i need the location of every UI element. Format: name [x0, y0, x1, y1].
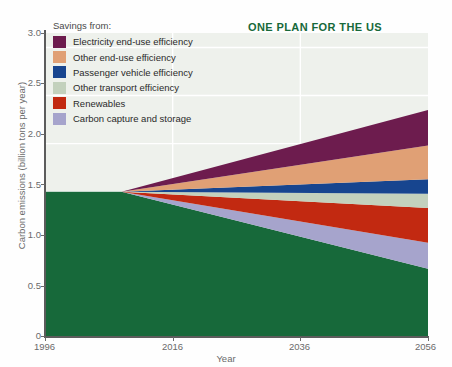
legend-swatch-icon	[53, 51, 66, 63]
x-tick-2056: 2056	[415, 341, 436, 352]
legend-item-label: Other end-use efficiency	[73, 52, 176, 63]
legend-item-other-end-use-efficiency: Other end-use efficiency	[53, 49, 243, 64]
x-tickmark-2036	[300, 337, 301, 341]
y-tickmark-1.5	[41, 184, 45, 185]
x-tickmark-2016	[173, 337, 174, 341]
legend-swatch-icon	[53, 36, 66, 48]
y-tickmark-2.5	[41, 83, 45, 84]
legend-item-label: Renewables	[73, 98, 125, 109]
legend-swatch-icon	[53, 66, 66, 78]
emissions-wedge-chart: 3.0 2.5 2.0 1.5 1.0 0.5 0 Carbon emissio…	[0, 0, 452, 367]
y-tickmark-0.5	[41, 286, 45, 287]
legend-item-renewables: Renewables	[53, 96, 243, 111]
legend-title: Savings from:	[53, 20, 243, 31]
legend-item-label: Passenger vehicle efficiency	[73, 67, 193, 78]
x-tick-1996: 1996	[34, 341, 55, 352]
y-tick-3.0: 3.0	[5, 28, 41, 38]
legend-swatch-icon	[53, 97, 66, 109]
legend-item-label: Carbon capture and storage	[73, 113, 191, 124]
x-tick-2016: 2016	[162, 341, 183, 352]
y-tickmark-1.0	[41, 235, 45, 236]
chart-headline: ONE PLAN FOR THE US	[248, 21, 382, 33]
legend-item-other-transport-efficiency: Other transport efficiency	[53, 80, 243, 95]
legend-item-label: Other transport efficiency	[73, 82, 179, 93]
legend-swatch-icon	[53, 113, 66, 125]
legend-swatch-icon	[53, 82, 66, 94]
x-axis-title: Year	[0, 353, 452, 364]
legend-item-electricity-end-use-efficiency: Electricity end-use efficiency	[53, 34, 243, 49]
y-axis-title: Carbon emissions (billion tons per year)	[16, 41, 27, 291]
legend-item-carbon-capture-and-storage: Carbon capture and storage	[53, 111, 243, 126]
x-tickmark-1996	[45, 337, 46, 341]
x-tickmark-2056	[428, 337, 429, 341]
legend: Savings from: Electricity end-use effici…	[53, 20, 243, 126]
legend-item-label: Electricity end-use efficiency	[73, 36, 193, 47]
y-tick-0: 0	[5, 331, 41, 341]
x-tick-2036: 2036	[289, 341, 310, 352]
x-axis-line	[44, 336, 429, 338]
legend-item-passenger-vehicle-efficiency: Passenger vehicle efficiency	[53, 65, 243, 80]
y-tickmark-3.0	[41, 33, 45, 34]
y-tickmark-2.0	[41, 134, 45, 135]
